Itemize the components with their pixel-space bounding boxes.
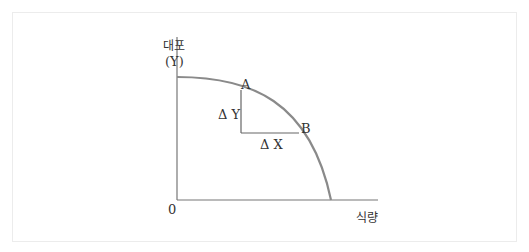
point-b-label: B <box>301 122 311 135</box>
y-axis-label-symbol: (Y) <box>165 55 184 68</box>
ppf-diagram <box>0 0 529 252</box>
delta-y-label: Δ Y <box>218 108 240 121</box>
origin-label: 0 <box>168 203 176 216</box>
x-axis-label: 식량 <box>356 212 378 224</box>
point-a-label: A <box>241 78 250 91</box>
delta-x-label: Δ X <box>260 138 283 151</box>
y-axis-label: 대포 <box>163 40 185 52</box>
ppf-curve <box>177 77 331 200</box>
